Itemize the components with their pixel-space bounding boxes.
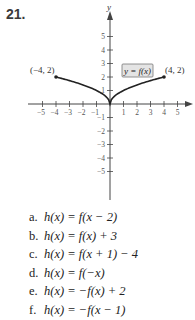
list-item: f.h(x) = −f(x − 1) [29, 301, 138, 320]
svg-text:5: 5 [176, 108, 180, 117]
svg-text:−3: −3 [97, 140, 105, 149]
label-left-point: (−4, 2) [30, 65, 55, 75]
svg-text:−2: −2 [97, 127, 105, 136]
svg-text:3: 3 [149, 108, 153, 117]
svg-text:−4: −4 [51, 108, 59, 117]
list-item: a.h(x) = f(x − 2) [29, 208, 138, 227]
svg-text:−5: −5 [97, 167, 105, 176]
svg-text:5: 5 [101, 32, 105, 41]
svg-text:y: y [106, 2, 111, 12]
function-label: y = f(x) [123, 66, 151, 76]
list-item: c.h(x) = f(x + 1) − 4 [29, 245, 138, 264]
svg-text:−1: −1 [97, 113, 105, 122]
svg-text:4: 4 [162, 108, 166, 117]
list-item: d.h(x) = f(−x) [29, 264, 138, 283]
svg-text:−3: −3 [64, 108, 72, 117]
svg-text:−4: −4 [97, 154, 105, 163]
function-graph: y −5−4−3−2−112345 −5−4−3−2−112345 (−4, 2… [0, 0, 195, 205]
svg-text:4: 4 [101, 46, 105, 55]
list-item: e.h(x) = −f(x) + 2 [29, 282, 138, 301]
x-axis-arrow-icon [185, 101, 193, 107]
endpoint-left [54, 75, 58, 79]
svg-text:3: 3 [101, 59, 105, 68]
list-item: b.h(x) = f(x) + 3 [29, 227, 138, 246]
svg-text:2: 2 [135, 108, 139, 117]
y-axis-arrow-icon [107, 11, 113, 20]
endpoint-right [162, 75, 166, 79]
svg-text:1: 1 [122, 108, 126, 117]
svg-text:2: 2 [101, 73, 105, 82]
svg-text:−5: −5 [37, 108, 45, 117]
svg-text:−2: −2 [78, 108, 86, 117]
label-right-point: (4, 2) [165, 65, 185, 75]
transformation-list: a.h(x) = f(x − 2) b.h(x) = f(x) + 3 c.h(… [29, 208, 138, 320]
